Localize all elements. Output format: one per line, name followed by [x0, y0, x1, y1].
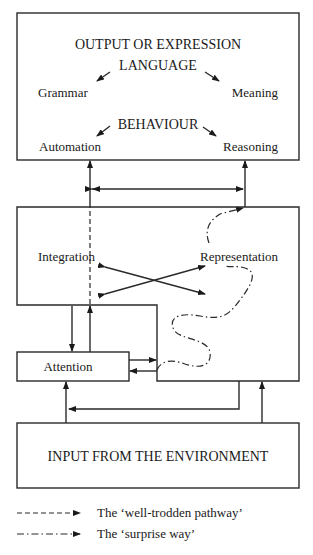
processing-to-attention-return-line — [69, 381, 239, 409]
diagram-canvas: OUTPUT OR EXPRESSION LANGUAGE Grammar Me… — [0, 0, 313, 555]
legend-well-trodden-label: The ‘well-trodden pathway’ — [97, 505, 243, 520]
legend: The ‘well-trodden pathway’ The ‘surprise… — [17, 505, 243, 541]
language-to-grammar-arrow — [97, 72, 110, 81]
language-to-meaning-arrow — [205, 72, 219, 81]
representation-label: Representation — [200, 249, 278, 264]
output-box: OUTPUT OR EXPRESSION LANGUAGE Grammar Me… — [17, 13, 299, 160]
legend-surprise-way-label: The ‘surprise way’ — [97, 526, 195, 541]
output-title: OUTPUT OR EXPRESSION — [75, 37, 241, 52]
attention-label: Attention — [43, 359, 93, 374]
language-label: LANGUAGE — [119, 58, 197, 73]
processing-box: Integration Representation — [17, 207, 299, 381]
processing-box-frame — [17, 207, 299, 381]
reasoning-label: Reasoning — [223, 139, 278, 154]
behaviour-to-automation-arrow — [97, 126, 110, 136]
integration-label: Integration — [38, 249, 96, 264]
grammar-label: Grammar — [38, 85, 88, 100]
attention-box: Attention — [17, 352, 129, 381]
behaviour-to-reasoning-arrow — [203, 127, 216, 136]
behaviour-label: BEHAVIOUR — [118, 117, 199, 132]
meaning-label: Meaning — [232, 85, 279, 100]
input-box: INPUT FROM THE ENVIRONMENT — [17, 423, 299, 488]
automation-label: Automation — [39, 139, 102, 154]
horizontal-arrowhead-left — [92, 186, 100, 192]
input-label: INPUT FROM THE ENVIRONMENT — [48, 449, 269, 464]
surprise-way-path — [157, 208, 252, 370]
